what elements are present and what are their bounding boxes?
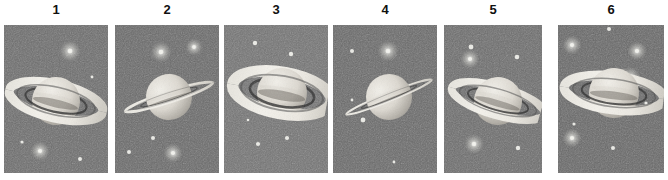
panel-label-1: 1 bbox=[4, 2, 108, 18]
saturn-panel-3-group: 3 bbox=[224, 0, 328, 180]
panel-label-2: 2 bbox=[115, 2, 219, 18]
scan-grain-overlay bbox=[4, 25, 108, 173]
saturn-panel-2 bbox=[115, 25, 219, 173]
scan-grain-overlay bbox=[115, 25, 219, 173]
saturn-panel-5-group: 5 bbox=[444, 0, 542, 180]
saturn-panel-1-group: 1 bbox=[4, 0, 108, 180]
saturn-panel-1 bbox=[4, 25, 108, 173]
scan-grain-overlay bbox=[224, 25, 328, 173]
saturn-sequence-figure: 123456 bbox=[0, 0, 668, 180]
saturn-panel-4 bbox=[333, 25, 437, 173]
saturn-panel-6 bbox=[558, 25, 664, 173]
saturn-panel-5 bbox=[444, 25, 542, 173]
scan-grain-overlay bbox=[444, 25, 542, 173]
scan-grain-overlay bbox=[333, 25, 437, 173]
panel-label-3: 3 bbox=[224, 2, 328, 18]
panel-label-6: 6 bbox=[558, 2, 664, 18]
saturn-panel-2-group: 2 bbox=[115, 0, 219, 180]
saturn-panel-6-group: 6 bbox=[558, 0, 664, 180]
panel-label-4: 4 bbox=[333, 2, 437, 18]
saturn-panel-4-group: 4 bbox=[333, 0, 437, 180]
scan-grain-overlay bbox=[558, 25, 664, 173]
saturn-panel-3 bbox=[224, 25, 328, 173]
panel-label-5: 5 bbox=[444, 2, 542, 18]
